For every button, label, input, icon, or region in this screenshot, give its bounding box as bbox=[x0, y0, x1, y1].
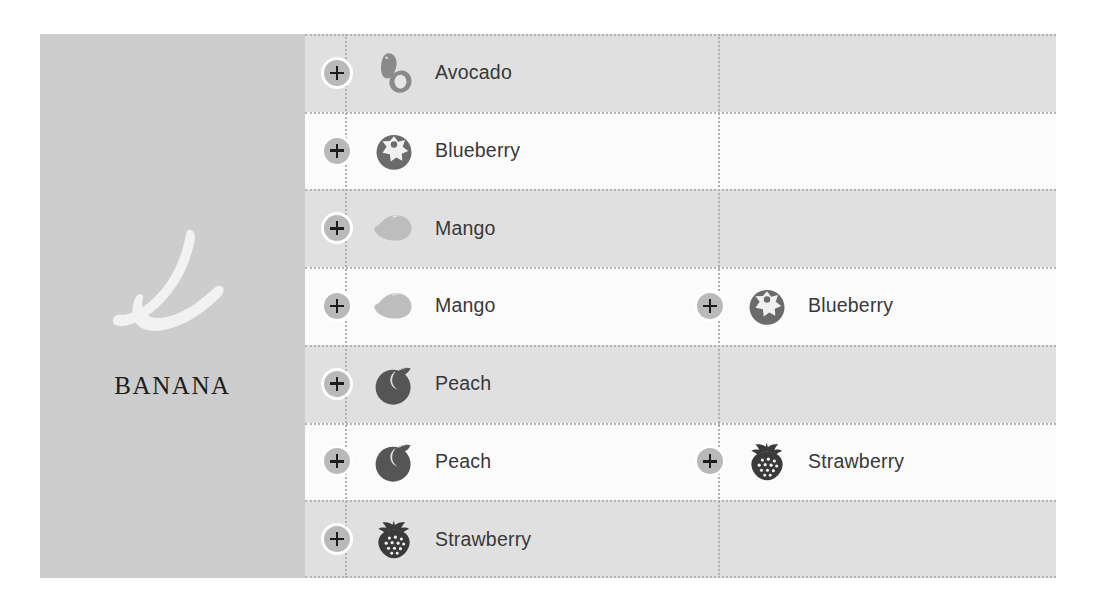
table-row: Peach bbox=[305, 423, 1056, 501]
strawberry-icon bbox=[744, 438, 790, 484]
add-button[interactable] bbox=[321, 445, 353, 477]
rows-area: Avocado Blueberry bbox=[305, 34, 1056, 578]
peach-icon bbox=[371, 438, 417, 484]
table-row: Peach bbox=[305, 345, 1056, 423]
list-item[interactable]: Strawberry bbox=[321, 500, 531, 578]
table-row: Mango Blueberry bbox=[305, 267, 1056, 345]
add-button[interactable] bbox=[321, 290, 353, 322]
plus-icon bbox=[709, 454, 712, 468]
list-item-label: Blueberry bbox=[808, 294, 893, 317]
list-item[interactable]: Peach bbox=[321, 423, 491, 501]
plus-icon bbox=[336, 221, 339, 235]
add-button[interactable] bbox=[321, 368, 353, 400]
plus-icon bbox=[336, 144, 339, 158]
add-button[interactable] bbox=[694, 290, 726, 322]
list-item-label: Peach bbox=[435, 372, 491, 395]
list-item[interactable]: Strawberry bbox=[694, 423, 904, 501]
add-button[interactable] bbox=[321, 135, 353, 167]
add-button[interactable] bbox=[321, 57, 353, 89]
mango-icon bbox=[371, 205, 417, 251]
table-row: Avocado bbox=[305, 34, 1056, 112]
table-row: Blueberry bbox=[305, 112, 1056, 190]
add-button[interactable] bbox=[694, 445, 726, 477]
list-item-label: Strawberry bbox=[435, 528, 531, 551]
add-button[interactable] bbox=[321, 212, 353, 244]
blueberry-icon bbox=[744, 283, 790, 329]
plus-icon bbox=[336, 454, 339, 468]
list-item-label: Avocado bbox=[435, 61, 512, 84]
fruit-comparison-chart: BANANA Avocado bbox=[40, 34, 1056, 578]
list-item[interactable]: Mango bbox=[321, 189, 496, 267]
list-item[interactable]: Mango bbox=[321, 267, 496, 345]
table-row: Strawberry bbox=[305, 500, 1056, 578]
list-item-label: Peach bbox=[435, 450, 491, 473]
peach-icon bbox=[371, 361, 417, 407]
strawberry-icon bbox=[371, 516, 417, 562]
hero-label: BANANA bbox=[114, 372, 231, 400]
list-item-label: Mango bbox=[435, 217, 496, 240]
mango-icon bbox=[371, 283, 417, 329]
avocado-icon bbox=[371, 50, 417, 96]
plus-icon bbox=[336, 299, 339, 313]
banana-icon bbox=[98, 212, 248, 362]
blueberry-icon bbox=[371, 128, 417, 174]
add-button[interactable] bbox=[321, 523, 353, 555]
list-item-label: Strawberry bbox=[808, 450, 904, 473]
plus-icon bbox=[336, 532, 339, 546]
list-item-label: Blueberry bbox=[435, 139, 520, 162]
plus-icon bbox=[336, 66, 339, 80]
list-item[interactable]: Blueberry bbox=[694, 267, 893, 345]
table-row: Mango bbox=[305, 189, 1056, 267]
list-item[interactable]: Avocado bbox=[321, 34, 512, 112]
plus-icon bbox=[709, 299, 712, 313]
list-item[interactable]: Blueberry bbox=[321, 112, 520, 190]
plus-icon bbox=[336, 377, 339, 391]
list-item[interactable]: Peach bbox=[321, 345, 491, 423]
hero-panel-banana: BANANA bbox=[40, 34, 305, 578]
list-item-label: Mango bbox=[435, 294, 496, 317]
